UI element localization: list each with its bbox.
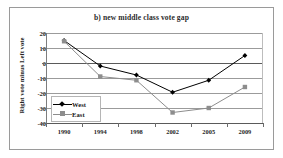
x-tick-mark-3 (155, 123, 156, 127)
x-tick-mark-0 (46, 123, 47, 127)
x-tick-label-2009: 2009 (225, 128, 265, 135)
legend-label-east: East (72, 111, 85, 118)
data-point-east-1990 (62, 39, 66, 43)
x-tick-label-1990: 1990 (44, 128, 84, 135)
x-tick-label-2002: 2002 (153, 128, 193, 135)
chart-figure: b) new middle class vote gap Right vote … (0, 0, 283, 158)
legend-item-west: West (53, 99, 100, 109)
x-tick-mark-1 (82, 123, 83, 127)
data-point-east-2002 (170, 110, 174, 114)
y-axis-ticks: 20100-10-20-30-40 (26, 0, 46, 158)
x-tick-mark-4 (191, 123, 192, 127)
x-tick-mark-5 (227, 123, 228, 127)
y-tick-mark-20 (42, 33, 46, 34)
legend-label-west: West (72, 101, 86, 108)
y-tick-mark-0 (42, 63, 46, 64)
data-point-east-1998 (134, 78, 138, 82)
diamond-marker-icon (59, 101, 65, 107)
y-axis-title: Right vote minus Left vote (18, 24, 25, 128)
x-tick-label-1994: 1994 (80, 128, 120, 135)
chart-legend: West East (51, 96, 101, 122)
legend-item-east: East (53, 109, 100, 119)
series-line-west (64, 41, 245, 93)
data-point-east-2005 (207, 106, 211, 110)
data-point-west-2002 (170, 90, 175, 95)
legend-swatch-west (53, 100, 72, 109)
x-tick-mark-6 (263, 123, 264, 127)
x-tick-label-1998: 1998 (116, 128, 156, 135)
y-tick-mark-10 (42, 48, 46, 49)
data-point-east-2009 (243, 85, 247, 89)
y-tick-mark--20 (42, 93, 46, 94)
data-point-east-1994 (98, 74, 102, 78)
y-tick-mark--30 (42, 108, 46, 109)
x-tick-label-2005: 2005 (189, 128, 229, 135)
data-point-west-1998 (134, 73, 139, 78)
x-tick-mark-2 (118, 123, 119, 127)
y-tick-mark--10 (42, 78, 46, 79)
chart-title: b) new middle class vote gap (9, 13, 274, 22)
square-marker-icon (60, 111, 65, 116)
legend-swatch-east (53, 110, 72, 119)
